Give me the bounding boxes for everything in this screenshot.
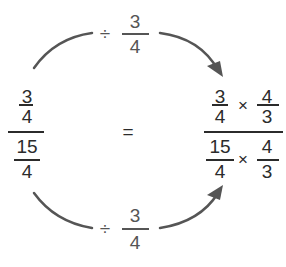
multiply-symbol: ×	[236, 96, 250, 115]
bottom-arc-left	[34, 193, 92, 228]
right-bottom-f1-denominator: 4	[209, 162, 231, 181]
divide-symbol: ÷	[97, 219, 113, 238]
bottom-op-denominator: 4	[121, 233, 149, 252]
bottom-op-bar	[122, 228, 149, 230]
left-main-fraction-bar	[8, 131, 44, 133]
top-op-denominator: 4	[121, 37, 149, 56]
bottom-arc-right	[160, 193, 218, 228]
right-top-f1-denominator: 4	[209, 107, 231, 126]
bottom-arrowhead-icon	[207, 185, 223, 200]
multiply-symbol: ×	[236, 150, 250, 169]
right-bottom-f2-denominator: 3	[256, 162, 278, 181]
left-top-denominator: 4	[16, 107, 38, 126]
bottom-op-numerator: 3	[121, 206, 149, 225]
right-bottom-f1-numerator: 15	[205, 137, 235, 156]
right-top-f2-denominator: 3	[256, 107, 278, 126]
top-arc-right	[160, 33, 218, 70]
divide-symbol: ÷	[97, 24, 113, 43]
top-arrowhead-icon	[207, 61, 223, 77]
top-op-bar	[122, 33, 149, 35]
right-main-fraction-bar	[204, 131, 283, 133]
top-arc-left	[34, 33, 92, 68]
left-bottom-denominator: 4	[16, 162, 38, 181]
left-bottom-numerator: 15	[12, 137, 42, 156]
top-op-numerator: 3	[121, 12, 149, 31]
equals-sign: =	[118, 122, 138, 141]
right-bottom-f2-numerator: 4	[256, 137, 278, 156]
